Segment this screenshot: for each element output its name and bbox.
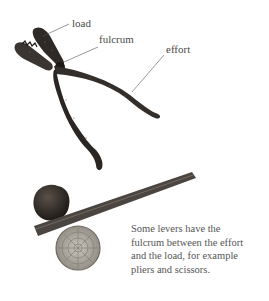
- caption-line: and the load, for example: [131, 249, 269, 263]
- effort-leader-line: [132, 55, 164, 92]
- stone-load: [33, 185, 69, 221]
- label-load: load: [72, 18, 91, 29]
- pliers-illustration: [15, 28, 161, 171]
- label-effort: effort: [166, 44, 190, 55]
- fulcrum-leader-line: [64, 47, 98, 62]
- caption-line: Some levers have the: [131, 222, 269, 236]
- load-leader-line: [43, 24, 69, 36]
- caption-line: pliers and scissors.: [131, 263, 269, 277]
- caption-line: fulcrum between the effort: [131, 236, 269, 250]
- pliers-handle-right: [54, 66, 160, 119]
- label-fulcrum: fulcrum: [99, 34, 134, 45]
- pliers-handle-down: [53, 70, 102, 170]
- figure-caption: Some levers have the fulcrum between the…: [131, 222, 269, 276]
